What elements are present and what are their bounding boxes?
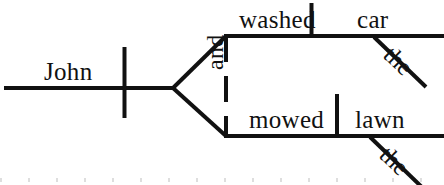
sentence-diagram: John and washed car the mowed lawn the (0, 0, 444, 185)
lower-branch-connector (173, 88, 226, 136)
subject-label: John (44, 59, 92, 84)
upper-object-label: car (357, 7, 388, 32)
lower-object-label: lawn (355, 107, 405, 132)
conjunction-label: and (203, 34, 227, 70)
lower-verb-label: mowed (249, 107, 324, 132)
upper-verb-label: washed (239, 7, 316, 32)
